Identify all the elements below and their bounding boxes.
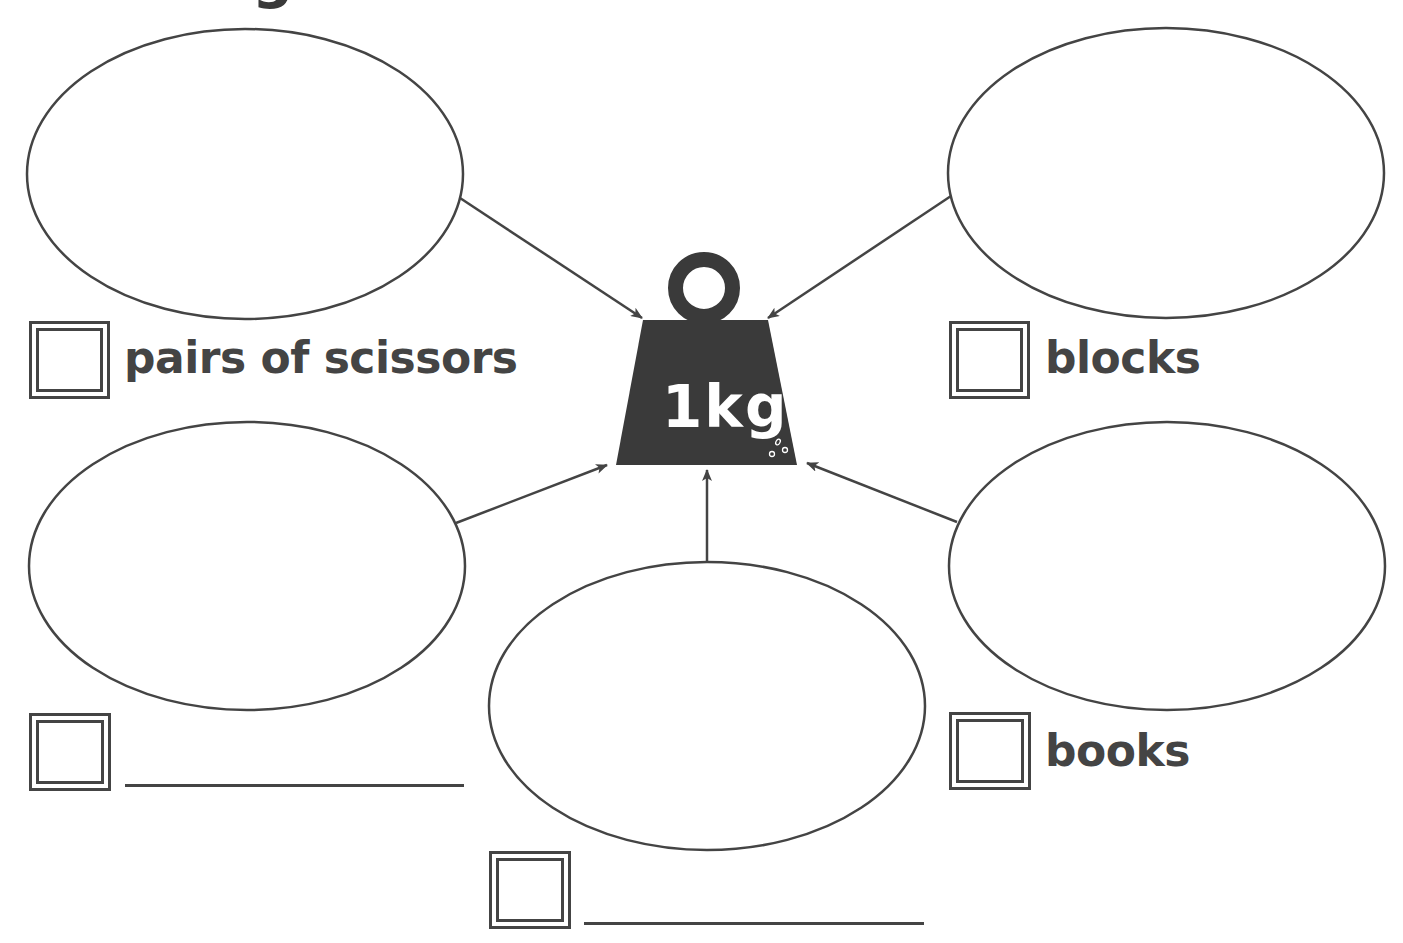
answer-ellipse-middle-right[interactable] — [949, 422, 1385, 710]
count-checkbox-scissors[interactable] — [29, 321, 110, 399]
arrow-middle-left — [456, 465, 607, 523]
arrow-top-right — [768, 196, 951, 318]
answer-ellipse-top-right[interactable] — [948, 28, 1384, 318]
write-in-line-bottom-center[interactable] — [584, 922, 924, 925]
write-in-line-middle-left[interactable] — [125, 784, 464, 787]
count-checkbox-bottom-center[interactable] — [489, 851, 571, 929]
item-label-scissors: pairs of scissors — [124, 336, 518, 380]
item-label-books: books — [1045, 729, 1190, 773]
diagram-graphics — [0, 0, 1403, 943]
count-checkbox-books[interactable] — [949, 712, 1031, 790]
count-checkbox-blocks[interactable] — [949, 321, 1030, 399]
count-checkbox-middle-left[interactable] — [29, 713, 111, 791]
worksheet: g 1kg pairs of scissors — [0, 0, 1403, 943]
weight-label: 1kg — [662, 378, 788, 436]
answer-ellipse-top-left[interactable] — [27, 29, 463, 319]
arrow-top-left — [460, 198, 642, 318]
arrow-middle-right — [807, 463, 957, 522]
answer-ellipse-bottom-center[interactable] — [489, 562, 925, 850]
answer-ellipse-middle-left[interactable] — [29, 422, 465, 710]
item-label-blocks: blocks — [1045, 336, 1200, 380]
